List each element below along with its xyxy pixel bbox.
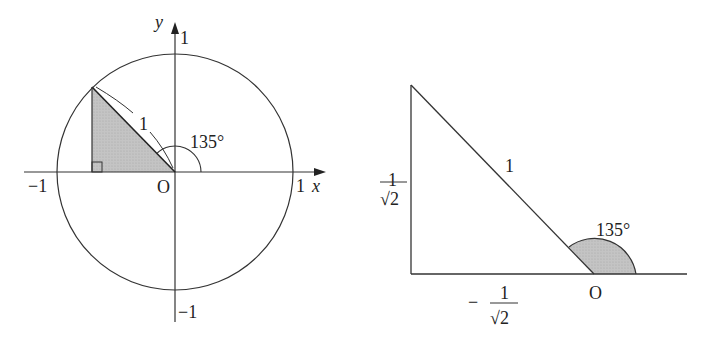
hypotenuse: [411, 85, 594, 274]
figure-canvas: y 1 −1 −1 1 x O 1 135° 1 1 √2 − 1 √2 O 1…: [0, 0, 708, 341]
radius-label: 1: [139, 114, 148, 134]
horizontal-label-numerator: 1: [500, 283, 509, 303]
y-tick-pos-label: 1: [180, 28, 189, 48]
x-axis-label: x: [311, 176, 320, 196]
origin-label: O: [157, 177, 170, 197]
angle-label: 135°: [596, 220, 630, 240]
y-axis-label: y: [153, 12, 163, 32]
origin-label: O: [589, 283, 602, 303]
horizontal-label-sign: −: [468, 292, 478, 312]
x-tick-pos-label: 1: [296, 176, 305, 196]
hypotenuse-label: 1: [505, 156, 514, 176]
x-axis-arrow-icon: [314, 168, 326, 176]
horizontal-label-denominator: √2: [490, 308, 509, 328]
y-axis-arrow-icon: [171, 22, 179, 34]
shaded-angle-sector: [569, 238, 636, 274]
vertical-label-numerator: 1: [388, 170, 397, 190]
reference-triangle-diagram: 1 1 √2 − 1 √2 O 135°: [380, 85, 687, 328]
unit-circle-diagram: y 1 −1 −1 1 x O 1 135°: [24, 12, 326, 322]
angle-label: 135°: [190, 132, 224, 152]
vertical-label-denominator: √2: [380, 189, 399, 209]
y-tick-neg-label: −1: [178, 302, 197, 322]
x-tick-neg-label: −1: [28, 176, 47, 196]
